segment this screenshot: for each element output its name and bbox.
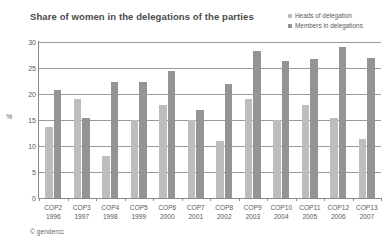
x-axis-tick-mark: [125, 198, 126, 201]
y-axis-tick-label: 20: [22, 91, 36, 98]
bar: [74, 99, 82, 198]
x-axis-label-cop: COP7: [187, 204, 205, 211]
x-axis-label-year: 1997: [73, 212, 91, 221]
x-axis-label-cop: COP8: [215, 204, 233, 211]
x-axis-tick-mark: [182, 198, 183, 201]
bar-group: [302, 42, 318, 198]
y-axis-tick-label: 0: [22, 195, 36, 202]
x-axis-label-year: 2006: [327, 212, 349, 221]
bar: [188, 120, 196, 198]
x-axis-label: COP41998: [101, 203, 119, 221]
bar: [54, 90, 62, 198]
legend-label-members-in-delegations: Members in delegations: [295, 22, 363, 29]
x-axis-label-year: 2007: [356, 212, 378, 221]
x-axis-label-cop: COP5: [130, 204, 148, 211]
x-axis-tick-mark: [39, 198, 40, 201]
bar: [196, 110, 204, 198]
bar: [253, 51, 261, 198]
x-axis-tick-mark: [267, 198, 268, 201]
bar: [310, 59, 318, 198]
x-axis-label: COP82002: [215, 203, 233, 221]
bar-group: [216, 42, 232, 198]
copyright-icon: ©: [30, 228, 35, 235]
bar-group: [131, 42, 147, 198]
x-axis-tick-mark: [210, 198, 211, 201]
chart-title: Share of women in the delegations of the…: [30, 11, 254, 22]
x-axis-tick-mark: [68, 198, 69, 201]
x-axis-label: COP62000: [158, 203, 176, 221]
x-axis-tick-mark: [324, 198, 325, 201]
legend-swatch-heads-of-delegation: [288, 14, 292, 18]
x-axis-tick-mark: [381, 198, 382, 201]
plot-area: [39, 42, 381, 198]
bar: [302, 105, 310, 198]
bar: [139, 82, 147, 198]
bar: [245, 99, 253, 198]
y-axis-tick-labels: 051015202530: [18, 0, 36, 249]
x-axis-label: COP21996: [44, 203, 62, 221]
y-axis-tick-label: 15: [22, 117, 36, 124]
x-axis-label-year: 2000: [158, 212, 176, 221]
x-axis-tick-mark: [153, 198, 154, 201]
bar: [273, 120, 281, 198]
x-axis-label-year: 2002: [215, 212, 233, 221]
chart-legend: Heads of delegation Members in delegatio…: [288, 12, 363, 29]
bar: [330, 118, 338, 198]
x-axis-tick-mark: [353, 198, 354, 201]
footer-credit: © gendercc: [30, 228, 64, 235]
x-axis-label-year: 2003: [244, 212, 262, 221]
x-axis-label-cop: COP10: [270, 204, 292, 211]
x-axis-label: COP31997: [73, 203, 91, 221]
x-axis-label-year: 1996: [44, 212, 62, 221]
x-axis-label: COP102004: [270, 203, 292, 221]
x-axis-label-year: 2004: [270, 212, 292, 221]
bar-group: [74, 42, 90, 198]
x-axis-label-year: 2001: [187, 212, 205, 221]
bar: [45, 127, 53, 198]
x-axis-label: COP51999: [130, 203, 148, 221]
y-axis-tick-label: 10: [22, 143, 36, 150]
legend-item-members-in-delegations: Members in delegations: [288, 22, 363, 29]
x-axis-label: COP112005: [299, 203, 320, 221]
y-axis-unit-label: %: [6, 113, 12, 120]
y-axis-tick-label: 30: [22, 39, 36, 46]
x-axis-label-year: 1999: [130, 212, 148, 221]
y-axis-tick-label: 25: [22, 65, 36, 72]
x-axis-label: COP132007: [356, 203, 378, 221]
x-axis-label-cop: COP13: [356, 204, 378, 211]
bar-group: [245, 42, 261, 198]
bar: [131, 120, 139, 198]
bar-group: [188, 42, 204, 198]
x-axis-tick-mark: [239, 198, 240, 201]
bar: [168, 71, 176, 198]
bar-group: [330, 42, 346, 198]
x-axis-tick-mark: [96, 198, 97, 201]
y-axis-tick-label: 5: [22, 169, 36, 176]
legend-swatch-members-in-delegations: [288, 24, 292, 28]
bar: [82, 118, 90, 198]
x-axis-label-cop: COP4: [101, 204, 119, 211]
bar: [339, 47, 347, 198]
bar-group: [102, 42, 118, 198]
bar: [159, 105, 167, 198]
bar: [225, 84, 233, 198]
bar-group: [159, 42, 175, 198]
chart-container: Share of women in the delegations of the…: [0, 0, 388, 249]
legend-item-heads-of-delegation: Heads of delegation: [288, 12, 363, 19]
x-axis-label: COP122006: [327, 203, 349, 221]
x-axis-label-cop: COP6: [158, 204, 176, 211]
bar: [111, 82, 119, 198]
bar-group: [45, 42, 61, 198]
credit-label: gendercc: [37, 228, 64, 235]
x-axis-label-cop: COP12: [327, 204, 349, 211]
x-axis-label-cop: COP3: [73, 204, 91, 211]
bar: [282, 61, 290, 198]
bar-group: [273, 42, 289, 198]
bar: [367, 58, 375, 198]
bar: [216, 141, 224, 198]
x-axis-label-year: 1998: [101, 212, 119, 221]
legend-label-heads-of-delegation: Heads of delegation: [295, 12, 352, 19]
x-axis-tick-mark: [296, 198, 297, 201]
x-axis-label: COP92003: [244, 203, 262, 221]
x-axis-label-year: 2005: [299, 212, 320, 221]
